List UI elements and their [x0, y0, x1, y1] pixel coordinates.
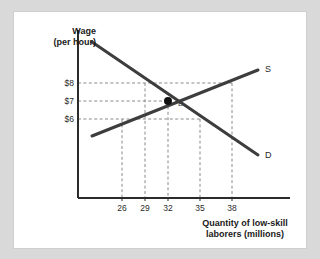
screenshot-root: Wage (per hour) Quantity of low-skill la… — [0, 0, 320, 259]
equilibrium-point-label: E — [178, 99, 183, 108]
xtick-label-35: 35 — [188, 203, 212, 213]
x-axis-title: Quantity of low-skill laborers (millions… — [185, 218, 305, 240]
y-axis-title-line2: (per hour) — [34, 37, 96, 48]
xtick-label-26: 26 — [110, 203, 134, 213]
y-axis-title-line1: Wage — [34, 26, 96, 37]
ytick-label-6: $6 — [48, 114, 74, 124]
x-axis-title-line1: Quantity of low-skill — [185, 218, 305, 229]
xtick-label-29: 29 — [133, 203, 157, 213]
xtick-label-38: 38 — [220, 203, 244, 213]
equilibrium-point-marker — [164, 97, 172, 105]
x-axis-title-line2: laborers (millions) — [185, 229, 305, 240]
y-axis-title: Wage (per hour) — [34, 26, 96, 48]
supply-curve — [92, 70, 258, 136]
ytick-label-8: $8 — [48, 78, 74, 88]
demand-curve-label: D — [265, 150, 272, 160]
demand-curve — [92, 42, 258, 155]
xtick-label-32: 32 — [156, 203, 180, 213]
ytick-label-7: $7 — [48, 96, 74, 106]
supply-curve-label: S — [265, 64, 271, 74]
